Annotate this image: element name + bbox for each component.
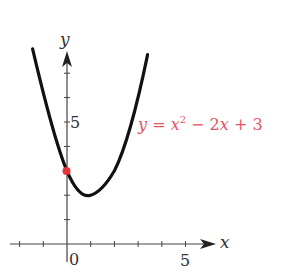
x-tick-label-0: 0 bbox=[69, 250, 79, 269]
parabola-curve bbox=[33, 49, 148, 196]
x-axis: x 0 5 bbox=[10, 232, 230, 270]
y-axis-label: y bbox=[59, 29, 70, 49]
x-axis-label: x bbox=[220, 232, 230, 252]
y-axis: y 5 bbox=[59, 29, 80, 262]
y-tick-label-5: 5 bbox=[70, 113, 80, 132]
parabola-chart: x 0 5 y 5 y = x2 − 2x + 3 bbox=[0, 0, 287, 277]
equation-label: y = x2 − 2x + 3 bbox=[137, 114, 263, 134]
x-tick-label-5: 5 bbox=[180, 251, 190, 270]
y-intercept-point bbox=[63, 167, 71, 175]
